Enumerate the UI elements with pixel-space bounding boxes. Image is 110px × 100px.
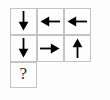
- grid-cell-r3c1[interactable]: ?: [10, 62, 38, 89]
- grid-cell-r1c2[interactable]: [37, 8, 65, 36]
- left-arrow-icon: [40, 15, 60, 28]
- grid-cell-r2c2[interactable]: [37, 35, 65, 63]
- question-mark-glyph: ?: [19, 65, 27, 82]
- grid-cell-r2c1[interactable]: [10, 35, 38, 63]
- grid-cell-r3c2-empty: [37, 62, 64, 88]
- up-arrow-icon: [71, 38, 84, 58]
- grid-cell-r1c3[interactable]: [64, 8, 92, 36]
- grid-cell-r2c3[interactable]: [64, 35, 92, 63]
- grid-cell-r3c3-empty: [64, 62, 91, 88]
- puzzle-grid: ?: [10, 8, 91, 88]
- down-arrow-icon: [17, 38, 30, 58]
- left-arrow-icon: [67, 15, 87, 28]
- puzzle-screenshot: ?: [0, 0, 110, 100]
- grid-cell-r1c1[interactable]: [10, 8, 38, 36]
- right-arrow-icon: [40, 42, 60, 55]
- down-arrow-icon: [17, 11, 30, 31]
